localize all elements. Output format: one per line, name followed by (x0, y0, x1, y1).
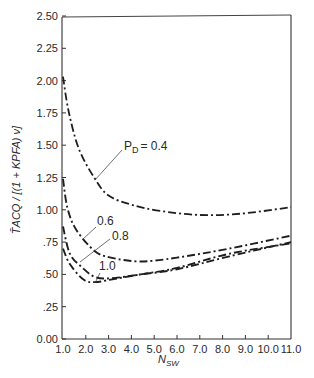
y-tick-label: 1.25 (37, 172, 58, 184)
y-tick-label: 1.50 (37, 139, 58, 151)
y-tick-label: 2.25 (37, 42, 58, 54)
annotation-pd-0.6: 0.6 (83, 214, 114, 239)
svg-text:PD= 0.4: PD= 0.4 (124, 139, 168, 155)
x-tick-label: 9.0 (238, 343, 253, 355)
x-tick-label: 4.0 (124, 343, 139, 355)
plot-frame (62, 15, 291, 339)
x-tick-label: 2.0 (78, 343, 93, 355)
label-0.8: 0.8 (112, 229, 129, 243)
series-lines (63, 77, 291, 282)
x-axis-ticks: 1.02.03.04.05.06.07.08.09.010.011.0 (55, 335, 301, 355)
y-tick-label: .75 (43, 236, 58, 248)
chart: 0.00.25.50.751.001.251.501.752.002.252.5… (0, 0, 314, 378)
x-tick-label: 7.0 (192, 343, 207, 355)
x-tick-label: 10.0 (257, 343, 278, 355)
label-1.0: 1.0 (99, 259, 116, 273)
annotation-pd-0.4: PD= 0.4 (95, 139, 168, 180)
y-tick-label: 2.50 (37, 10, 58, 22)
x-tick-label: 1.0 (55, 343, 70, 355)
x-tick-label: 6.0 (169, 343, 184, 355)
y-tick-label: 2.00 (37, 75, 58, 87)
x-tick-label: 11.0 (281, 343, 302, 355)
x-tick-label: 8.0 (215, 343, 230, 355)
x-tick-label: 3.0 (101, 343, 116, 355)
y-tick-label: .50 (43, 268, 58, 280)
top-frame-line (62, 15, 291, 17)
x-axis-title: NSW (158, 353, 180, 368)
y-axis-title: T̄ACQ / [(1 + KPFA) ν] (10, 125, 22, 234)
label-0.6: 0.6 (97, 214, 114, 228)
y-tick-label: 1.75 (37, 107, 58, 119)
series-line-0.4 (63, 77, 291, 215)
y-tick-label: 1.00 (37, 204, 58, 216)
y-tick-label: .25 (43, 301, 58, 313)
